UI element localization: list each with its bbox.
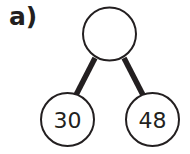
part-value-left: 30 — [54, 108, 82, 133]
part-whole-diagram: 30 48 — [0, 0, 190, 154]
whole-circle[interactable] — [83, 8, 136, 61]
whole-node[interactable] — [83, 8, 136, 61]
connector-right — [124, 58, 143, 95]
part-value-right: 48 — [139, 108, 167, 133]
part-node-left: 30 — [41, 93, 94, 146]
part-node-right: 48 — [126, 93, 179, 146]
connector-left — [76, 58, 95, 95]
